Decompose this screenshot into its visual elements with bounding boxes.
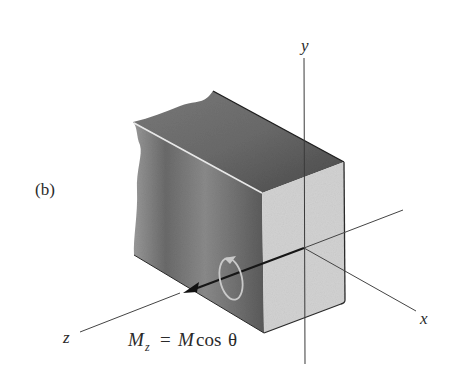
panel-label: (b)	[35, 180, 55, 199]
moment-rhs-symbol: M	[177, 329, 195, 350]
moment-lhs-symbol: M	[127, 329, 145, 350]
y-axis-label: y	[299, 36, 309, 55]
z-axis-label: z	[62, 328, 70, 347]
moment-equation: M z = M cos θ	[127, 329, 237, 354]
moment-rhs-function: cos	[196, 329, 221, 350]
moment-rhs-angle: θ	[228, 329, 237, 350]
beam-moment-diagram: (b) y x z M z = M cos θ	[0, 0, 454, 380]
moment-equals: =	[160, 329, 171, 350]
x-axis-label: x	[419, 309, 428, 328]
z-axis-line	[80, 293, 180, 332]
moment-lhs-subscript: z	[144, 340, 150, 354]
